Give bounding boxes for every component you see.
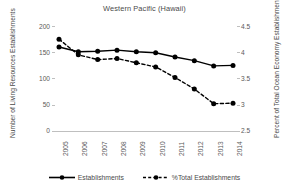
legend-solid-line-icon: [49, 173, 75, 182]
legend-item-percent-total[interactable]: %Total Establishments: [143, 173, 240, 182]
series-markers-percent-total: [57, 37, 236, 107]
legend-label-percent-total: %Total Establishments: [172, 174, 240, 181]
x-tick-label-2010: 2010: [159, 141, 166, 156]
data-point: [95, 49, 100, 54]
legend-label-establishments: Establishments: [78, 174, 124, 181]
y-tick-right-3: 3: [241, 101, 263, 108]
data-point: [211, 63, 216, 68]
x-tick-label-2005: 2005: [62, 141, 69, 156]
data-point: [192, 87, 197, 92]
data-point: [153, 50, 158, 55]
tickmark-right: [237, 52, 240, 53]
y-tick-right-4: 4: [241, 49, 263, 56]
data-point: [57, 37, 62, 42]
data-point: [134, 60, 139, 65]
data-point: [173, 54, 178, 59]
y-tick-right-4point5: 4.5: [241, 23, 263, 30]
plot-area: [55, 26, 237, 131]
tickmark-right: [237, 26, 240, 27]
chart-title: Western Pacific (Hawaii): [0, 4, 289, 13]
y-tick-left-200: 200: [28, 23, 50, 30]
x-tick-label-2011: 2011: [178, 142, 185, 156]
x-tick-label-2014: 2014: [236, 141, 243, 156]
series-line-percent-total: [59, 39, 233, 104]
data-point: [134, 49, 139, 54]
legend-dashed-line-icon: [143, 173, 169, 182]
x-tick-label-2012: 2012: [197, 141, 204, 156]
data-point: [211, 101, 216, 106]
chart-legend: Establishments %Total Establishments: [0, 170, 289, 184]
y-tick-left-150: 150: [28, 49, 50, 56]
y-axis-left-title: Number of Living Resources Establishment…: [9, 18, 17, 138]
data-point: [231, 63, 236, 68]
y-tick-right-3point5: 3.5: [241, 75, 263, 82]
tickmark-right: [237, 105, 240, 106]
chart-container: Western Pacific (Hawaii) Number of Livin…: [0, 0, 289, 192]
data-point: [95, 57, 100, 62]
x-tick-label-2007: 2007: [101, 141, 108, 156]
x-tick-label-2013: 2013: [217, 141, 224, 156]
data-point: [57, 45, 62, 50]
data-point: [76, 52, 81, 57]
data-point: [173, 75, 178, 80]
data-point: [115, 48, 120, 53]
legend-item-establishments[interactable]: Establishments: [49, 173, 124, 182]
x-tick-label-2009: 2009: [139, 141, 146, 156]
tickmark-right: [237, 78, 240, 79]
y-tick-right-2point5: 2.5: [241, 127, 263, 134]
data-point: [115, 56, 120, 61]
x-tick-label-2008: 2008: [120, 141, 127, 156]
y-tick-left-100: 100: [28, 75, 50, 82]
x-tick-label-2006: 2006: [81, 141, 88, 156]
y-axis-right-title: Percent of Total Ocean Economy Establish…: [273, 18, 281, 138]
data-point: [231, 101, 236, 106]
data-point: [192, 58, 197, 63]
y-tick-left-50: 50: [28, 101, 50, 108]
data-point: [153, 64, 158, 69]
y-tick-left-0: 0: [28, 127, 50, 134]
